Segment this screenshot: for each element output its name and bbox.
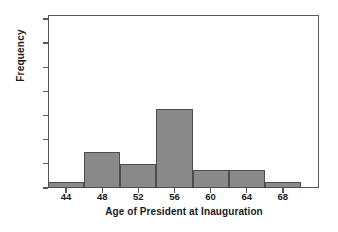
histogram-bar [84,152,120,188]
histogram-bar [193,170,229,188]
x-tick-label: 60 [196,191,226,202]
histogram-bar [229,170,265,188]
x-tick-label: 56 [159,191,189,202]
x-tick-label: 48 [87,191,117,202]
histogram-bar [265,182,301,188]
bars-layer [48,15,319,188]
histogram-chart: Frequency 1591317212529 44485256606468 A… [0,0,338,232]
x-tick-label: 64 [232,191,262,202]
x-tick-label: 52 [123,191,153,202]
histogram-bar [48,182,84,188]
y-axis-title: Frequency [15,0,26,121]
histogram-bar [120,164,156,188]
histogram-bar [156,109,192,188]
x-tick-label: 44 [51,191,81,202]
x-tick-label: 68 [268,191,298,202]
x-axis-title: Age of President at Inauguration [48,206,320,217]
